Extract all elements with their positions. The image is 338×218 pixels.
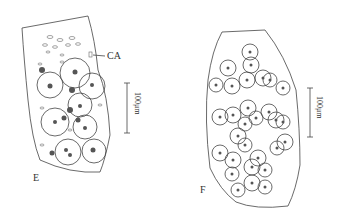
panel-f-scale-label: 100μm [315,96,324,119]
panel-f-label: F [200,184,206,195]
panel-f-scale-bar [307,88,313,137]
panel-e-scale-label: 100μm [133,92,142,115]
panel-f [206,30,313,207]
panel-e-label: E [33,172,39,183]
ca-pointer-line [93,55,105,56]
panel-f-outline [206,30,300,207]
figure-drawing [0,0,338,218]
panel-e [22,16,130,172]
ca-annotation: CA [107,50,121,61]
panel-e-scale-bar [124,83,130,133]
